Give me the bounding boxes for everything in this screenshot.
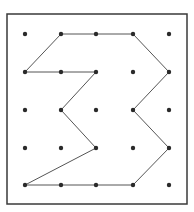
grid-dot bbox=[131, 146, 135, 150]
grid-dot bbox=[23, 183, 27, 187]
grid-dot bbox=[94, 146, 98, 150]
dot-grid-diagram bbox=[0, 0, 194, 212]
grid-dot bbox=[167, 32, 171, 36]
grid-dot bbox=[94, 183, 98, 187]
grid-dot bbox=[131, 32, 135, 36]
grid-dot bbox=[167, 146, 171, 150]
grid-dot bbox=[59, 183, 63, 187]
grid-dot bbox=[167, 183, 171, 187]
grid-dot bbox=[131, 108, 135, 112]
grid-dot bbox=[59, 146, 63, 150]
grid-dot bbox=[94, 70, 98, 74]
grid-dot bbox=[23, 32, 27, 36]
grid-dot bbox=[167, 70, 171, 74]
grid-dot bbox=[131, 70, 135, 74]
grid-dot bbox=[131, 183, 135, 187]
grid-dot bbox=[23, 70, 27, 74]
grid-dot bbox=[59, 108, 63, 112]
grid-dot bbox=[167, 108, 171, 112]
grid-dot bbox=[94, 32, 98, 36]
grid-dot bbox=[59, 70, 63, 74]
grid-dot bbox=[94, 108, 98, 112]
grid-dot bbox=[23, 108, 27, 112]
grid-dot bbox=[23, 146, 27, 150]
grid-dot bbox=[59, 32, 63, 36]
grid-dots bbox=[23, 32, 171, 187]
